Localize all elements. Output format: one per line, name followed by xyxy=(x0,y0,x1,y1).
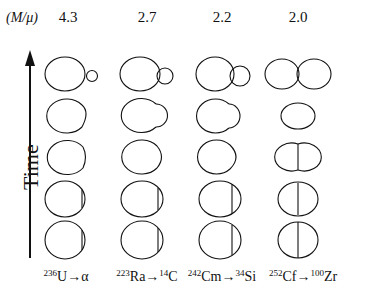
column-3-shapes xyxy=(196,57,250,259)
shape-c2-r5 xyxy=(121,221,163,259)
shape-c4-r3 xyxy=(275,143,322,171)
shape-c1-r1 xyxy=(45,57,98,91)
shape-c4-r5 xyxy=(278,222,318,258)
shape-c3-r1 xyxy=(196,57,250,91)
shape-c4-r2 xyxy=(281,103,315,129)
column-4-shapes xyxy=(265,59,331,258)
shape-c2-r4 xyxy=(121,181,163,217)
reaction-label-1: 236U→α xyxy=(21,268,111,285)
reaction-label-3: 242Cm→34Si xyxy=(177,268,267,285)
time-arrow-icon xyxy=(25,50,35,258)
shape-c3-r2 xyxy=(197,99,240,133)
shape-c4-r1 xyxy=(265,59,331,89)
shape-evolution-diagram xyxy=(0,0,365,297)
shape-c4-r4 xyxy=(278,182,318,216)
shape-c2-r3 xyxy=(122,140,162,174)
reaction-label-4: 252Cf→100Zr xyxy=(258,268,348,285)
shape-c3-r4 xyxy=(199,181,241,217)
shape-c1-r3 xyxy=(47,141,85,175)
column-1-shapes xyxy=(45,57,98,259)
shape-c1-r5 xyxy=(45,221,85,259)
shape-c2-r2 xyxy=(121,99,167,133)
column-2-shapes xyxy=(120,57,173,259)
shape-c3-r5 xyxy=(199,221,241,259)
shape-c3-r3 xyxy=(198,140,236,174)
shape-c2-r1 xyxy=(120,57,173,91)
shape-c1-r4 xyxy=(45,181,85,217)
shape-c1-r2 xyxy=(47,99,86,133)
